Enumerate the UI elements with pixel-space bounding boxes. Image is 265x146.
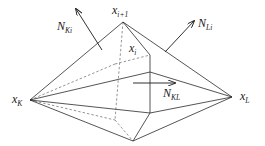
label-n-ki: NKi [56,19,72,35]
label-x-i: xi [128,41,136,57]
hidden-edge-backlower-bottom [115,120,133,141]
visible-edges [30,22,232,141]
edge-xl-xip1 [123,22,232,97]
hidden-edge-xk-backupper [30,64,115,100]
label-x-l: xL [239,89,250,105]
normal-arrow-li [165,21,194,52]
normal-vectors [76,9,194,83]
hidden-edges [30,22,150,141]
edge-xk-xip1 [30,22,123,100]
label-n-kl: NKL [162,86,180,102]
edge-xk-xi [30,72,150,100]
edge-xk-frontlower [30,100,150,113]
label-n-li: NLi [197,16,212,32]
labels: xK xL xi+1 xi NKi NLi NKL [11,3,250,108]
edge-xl-bottom [133,97,232,141]
hidden-edge-xip1-backlower [115,22,123,120]
edge-xk-bottom [30,100,133,141]
dual-cell-diagram: xK xL xi+1 xi NKi NLi NKL [0,0,265,146]
label-x-k: xK [11,92,23,108]
edge-xip1-xi [123,22,150,55]
normal-arrow-ki [76,9,102,50]
label-x-i-plus-1: xi+1 [111,3,128,19]
